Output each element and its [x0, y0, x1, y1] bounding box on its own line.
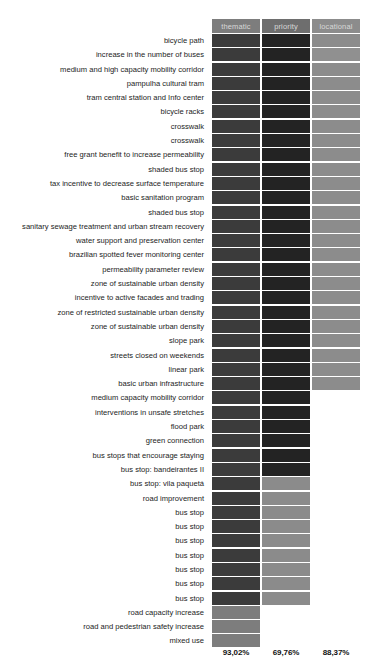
cell-priority[interactable] [262, 377, 310, 390]
cell-priority[interactable] [262, 191, 310, 204]
cell-priority[interactable] [262, 148, 310, 161]
cell-priority[interactable] [262, 277, 310, 290]
cell-locational[interactable] [312, 105, 360, 118]
cell-priority[interactable] [262, 220, 310, 233]
cell-thematic[interactable] [212, 206, 260, 219]
cell-thematic[interactable] [212, 606, 260, 619]
cell-priority[interactable] [262, 549, 310, 562]
column-header-priority[interactable]: priority [262, 19, 310, 33]
cell-thematic[interactable] [212, 306, 260, 319]
cell-priority[interactable] [262, 234, 310, 247]
cell-priority[interactable] [262, 291, 310, 304]
cell-priority[interactable] [262, 263, 310, 276]
cell-thematic[interactable] [212, 492, 260, 505]
cell-thematic[interactable] [212, 634, 260, 647]
cell-priority[interactable] [262, 206, 310, 219]
cell-thematic[interactable] [212, 148, 260, 161]
cell-thematic[interactable] [212, 592, 260, 605]
cell-thematic[interactable] [212, 320, 260, 333]
cell-thematic[interactable] [212, 363, 260, 376]
cell-thematic[interactable] [212, 177, 260, 190]
cell-thematic[interactable] [212, 520, 260, 533]
cell-priority[interactable] [262, 577, 310, 590]
cell-thematic[interactable] [212, 263, 260, 276]
cell-priority[interactable] [262, 306, 310, 319]
cell-thematic[interactable] [212, 120, 260, 133]
cell-locational[interactable] [312, 277, 360, 290]
column-header-thematic[interactable]: thematic [212, 19, 260, 33]
cell-priority[interactable] [262, 77, 310, 90]
cell-priority[interactable] [262, 506, 310, 519]
cell-locational[interactable] [312, 148, 360, 161]
cell-priority[interactable] [262, 320, 310, 333]
cell-priority[interactable] [262, 120, 310, 133]
cell-thematic[interactable] [212, 506, 260, 519]
cell-locational[interactable] [312, 63, 360, 76]
cell-thematic[interactable] [212, 563, 260, 576]
cell-thematic[interactable] [212, 191, 260, 204]
cell-locational[interactable] [312, 291, 360, 304]
cell-priority[interactable] [262, 477, 310, 490]
cell-thematic[interactable] [212, 334, 260, 347]
cell-locational[interactable] [312, 134, 360, 147]
column-header-locational[interactable]: locational [312, 19, 360, 33]
cell-locational[interactable] [312, 263, 360, 276]
cell-thematic[interactable] [212, 449, 260, 462]
cell-priority[interactable] [262, 563, 310, 576]
cell-priority[interactable] [262, 334, 310, 347]
cell-thematic[interactable] [212, 277, 260, 290]
cell-locational[interactable] [312, 77, 360, 90]
cell-thematic[interactable] [212, 391, 260, 404]
cell-priority[interactable] [262, 91, 310, 104]
cell-locational[interactable] [312, 349, 360, 362]
cell-priority[interactable] [262, 163, 310, 176]
cell-priority[interactable] [262, 449, 310, 462]
cell-thematic[interactable] [212, 420, 260, 433]
cell-priority[interactable] [262, 349, 310, 362]
cell-thematic[interactable] [212, 91, 260, 104]
cell-thematic[interactable] [212, 406, 260, 419]
cell-thematic[interactable] [212, 48, 260, 61]
cell-locational[interactable] [312, 220, 360, 233]
cell-thematic[interactable] [212, 291, 260, 304]
cell-thematic[interactable] [212, 234, 260, 247]
cell-thematic[interactable] [212, 105, 260, 118]
cell-locational[interactable] [312, 91, 360, 104]
cell-thematic[interactable] [212, 220, 260, 233]
cell-priority[interactable] [262, 134, 310, 147]
cell-thematic[interactable] [212, 620, 260, 633]
cell-thematic[interactable] [212, 549, 260, 562]
cell-priority[interactable] [262, 105, 310, 118]
cell-locational[interactable] [312, 320, 360, 333]
cell-priority[interactable] [262, 463, 310, 476]
cell-locational[interactable] [312, 234, 360, 247]
cell-priority[interactable] [262, 48, 310, 61]
cell-locational[interactable] [312, 363, 360, 376]
cell-locational[interactable] [312, 120, 360, 133]
cell-priority[interactable] [262, 248, 310, 261]
cell-thematic[interactable] [212, 34, 260, 47]
cell-locational[interactable] [312, 34, 360, 47]
cell-thematic[interactable] [212, 463, 260, 476]
cell-thematic[interactable] [212, 577, 260, 590]
cell-priority[interactable] [262, 492, 310, 505]
cell-thematic[interactable] [212, 63, 260, 76]
cell-locational[interactable] [312, 191, 360, 204]
cell-thematic[interactable] [212, 349, 260, 362]
cell-thematic[interactable] [212, 248, 260, 261]
cell-thematic[interactable] [212, 377, 260, 390]
cell-thematic[interactable] [212, 477, 260, 490]
cell-priority[interactable] [262, 534, 310, 547]
cell-locational[interactable] [312, 177, 360, 190]
cell-locational[interactable] [312, 306, 360, 319]
cell-priority[interactable] [262, 63, 310, 76]
cell-thematic[interactable] [212, 534, 260, 547]
cell-locational[interactable] [312, 248, 360, 261]
cell-thematic[interactable] [212, 77, 260, 90]
cell-priority[interactable] [262, 592, 310, 605]
cell-priority[interactable] [262, 363, 310, 376]
cell-locational[interactable] [312, 163, 360, 176]
cell-priority[interactable] [262, 434, 310, 447]
cell-locational[interactable] [312, 48, 360, 61]
cell-locational[interactable] [312, 334, 360, 347]
